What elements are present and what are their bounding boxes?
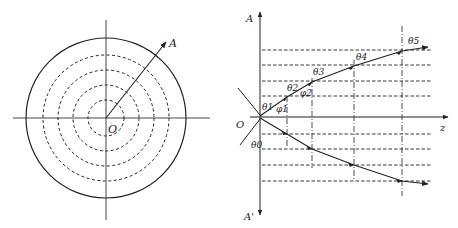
label-z: z [439,122,446,133]
label-theta1: θ1 [262,102,273,112]
diagram-canvas: A O [0,0,458,228]
ray-arrow [106,42,166,118]
label-theta4: θ4 [356,52,367,62]
vertical-dashdot-lines [287,26,402,196]
label-theta0: θ0 [251,140,262,150]
left-panel-concentric-circles: A O [13,20,210,220]
label-theta5: θ5 [408,36,419,46]
dashed-levels [262,50,432,181]
incident-ray [238,88,260,115]
right-panel-ray-diagram: A A' z O θ0 θ1 φ1 θ2 φ2 θ3 θ4 θ5 [236,12,448,222]
label-axis-a-prime: A' [243,211,254,222]
label-phi1: φ1 [276,104,288,114]
label-theta2: θ2 [287,83,298,93]
label-phi2: φ2 [300,88,312,98]
label-a: A [168,37,177,50]
label-axis-a: A [245,13,253,24]
label-origin: O [236,119,244,130]
lower-ray-path [260,118,428,184]
label-theta3: θ3 [313,67,324,77]
label-o: O [108,123,117,136]
